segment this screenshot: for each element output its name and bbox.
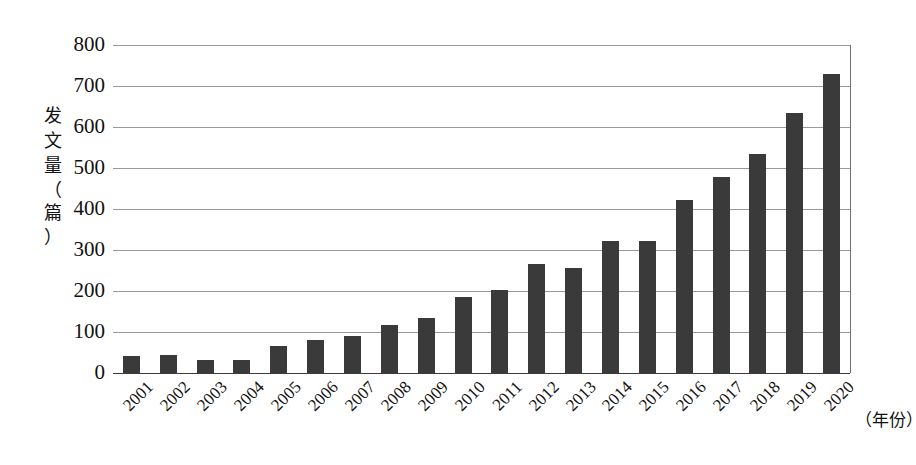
bar-2004 — [233, 360, 250, 373]
bar-2013 — [565, 268, 582, 373]
y-tick-label-700: 700 — [47, 75, 105, 96]
y-axis-tick-labels: 8007006005004003002001000 — [40, 45, 105, 373]
bar-chart-figure: 发 文 量 （ 篇 ） 8007006005004003002001000 20… — [0, 0, 916, 465]
x-tick-label-2015: 2015 — [636, 378, 672, 414]
x-tick-label-2008: 2008 — [378, 378, 414, 414]
x-tick-label-2010: 2010 — [452, 378, 488, 414]
x-axis-title: （年份） — [855, 412, 916, 429]
x-axis-tick-labels: 2001200220032004200520062007200820092010… — [113, 378, 850, 438]
bar-2003 — [197, 360, 214, 373]
bar-2001 — [123, 356, 140, 373]
x-tick-label-2005: 2005 — [268, 378, 304, 414]
y-tick-label-100: 100 — [47, 321, 105, 342]
x-tick-label-2020: 2020 — [821, 378, 857, 414]
plot-area — [113, 45, 850, 373]
x-tick-label-2013: 2013 — [563, 378, 599, 414]
bar-2007 — [344, 336, 361, 373]
bar-2006 — [307, 340, 324, 373]
bar-2015 — [639, 241, 656, 373]
bar-2002 — [160, 355, 177, 373]
bar-2010 — [455, 297, 472, 373]
x-tick-label-2006: 2006 — [305, 378, 341, 414]
bar-2017 — [713, 177, 730, 373]
y-tick-label-300: 300 — [47, 239, 105, 260]
y-tick-label-0: 0 — [47, 362, 105, 383]
bars-layer — [113, 45, 850, 373]
x-tick-label-2018: 2018 — [747, 378, 783, 414]
x-tick-label-2017: 2017 — [710, 378, 746, 414]
y-tick-label-800: 800 — [47, 34, 105, 55]
gridline-0 — [113, 373, 850, 374]
bar-2008 — [381, 325, 398, 373]
y-tick-label-400: 400 — [47, 198, 105, 219]
x-tick-label-2001: 2001 — [120, 378, 156, 414]
x-tick-label-2003: 2003 — [194, 378, 230, 414]
bar-2016 — [676, 200, 693, 373]
bar-2009 — [418, 318, 435, 373]
bar-2020 — [823, 74, 840, 373]
y-tick-label-200: 200 — [47, 280, 105, 301]
bar-2014 — [602, 241, 619, 373]
x-tick-label-2014: 2014 — [599, 378, 635, 414]
bar-2012 — [528, 264, 545, 373]
x-tick-label-2004: 2004 — [231, 378, 267, 414]
x-tick-label-2016: 2016 — [673, 378, 709, 414]
x-tick-label-2007: 2007 — [341, 378, 377, 414]
x-tick-label-2012: 2012 — [526, 378, 562, 414]
bar-2018 — [749, 154, 766, 373]
x-tick-label-2019: 2019 — [784, 378, 820, 414]
bar-2011 — [491, 290, 508, 373]
bar-2005 — [270, 346, 287, 373]
x-tick-label-2009: 2009 — [415, 378, 451, 414]
x-tick-label-2002: 2002 — [157, 378, 193, 414]
bar-2019 — [786, 113, 803, 373]
y-axis-tick-rail — [850, 45, 851, 373]
y-tick-label-600: 600 — [47, 116, 105, 137]
y-tick-label-500: 500 — [47, 157, 105, 178]
x-tick-label-2011: 2011 — [489, 378, 525, 414]
